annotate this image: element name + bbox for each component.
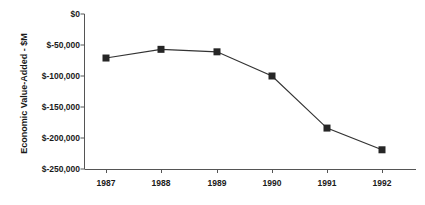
data-point-marker bbox=[269, 73, 276, 80]
plot-area bbox=[0, 0, 425, 205]
data-point-marker bbox=[379, 146, 386, 153]
data-point-marker bbox=[214, 48, 221, 55]
data-point-marker bbox=[158, 46, 165, 53]
data-markers bbox=[103, 46, 386, 153]
axes bbox=[81, 14, 417, 173]
y-axis-ticks bbox=[81, 14, 85, 169]
data-point-marker bbox=[103, 55, 110, 62]
data-line bbox=[106, 49, 382, 149]
chart-container: Economic Value-Added - $M $0 $-50,000 $-… bbox=[0, 0, 425, 205]
data-point-marker bbox=[324, 125, 331, 132]
